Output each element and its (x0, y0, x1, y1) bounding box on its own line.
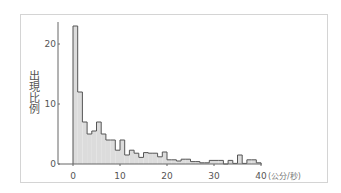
histogram-bin (167, 160, 172, 164)
x-tick-label: 40 (255, 171, 267, 181)
y-tick-label: 0 (50, 159, 56, 169)
histogram-bin (106, 140, 111, 164)
histogram-bin (209, 160, 214, 164)
histogram-bin (73, 26, 78, 164)
histogram-bin (247, 160, 252, 164)
x-ticks: 010203040 (70, 164, 267, 181)
histogram-bin (134, 153, 139, 164)
histogram-bin (162, 152, 167, 164)
histogram-bin (148, 153, 153, 164)
x-tick-label: 0 (70, 171, 76, 181)
histogram-bin (219, 160, 224, 164)
histogram-bin (87, 134, 92, 164)
histogram-bin (238, 155, 243, 164)
histogram-bin (78, 92, 83, 164)
histogram-bin (214, 160, 219, 164)
histogram-bin (228, 160, 233, 164)
x-tick-label: 30 (208, 171, 220, 181)
histogram-bin (115, 150, 120, 164)
x-axis-unit-label: (公分/秒) (268, 171, 301, 181)
histogram-bin (129, 150, 134, 164)
x-tick-label: 20 (161, 171, 173, 181)
x-tick-label: 10 (114, 171, 126, 181)
y-tick-label: 20 (45, 39, 57, 49)
histogram-bin (120, 140, 125, 164)
histogram-bin (172, 160, 177, 164)
y-tick-label: 10 (45, 99, 57, 109)
histogram-bin (111, 140, 116, 164)
histogram-bin (92, 131, 97, 164)
histogram-chart: 01020 010203040 (公分/秒) (0, 0, 341, 193)
histogram-bin (186, 159, 191, 164)
histogram-bars (73, 26, 261, 164)
histogram-bin (125, 155, 130, 164)
histogram-bin (139, 157, 144, 164)
histogram-bin (252, 160, 257, 164)
histogram-bin (82, 122, 87, 164)
histogram-bin (144, 153, 149, 164)
histogram-bin (153, 153, 158, 164)
histogram-bin (97, 122, 102, 164)
histogram-bin (181, 159, 186, 164)
histogram-bin (158, 157, 163, 164)
histogram-bin (101, 134, 106, 164)
